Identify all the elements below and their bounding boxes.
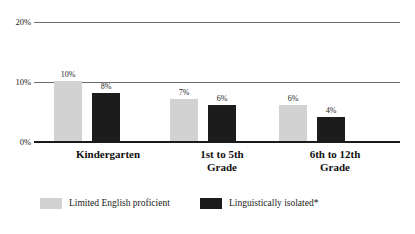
bar-linguistically-isolated — [208, 105, 236, 141]
bar-value-label: 6% — [202, 94, 242, 103]
bar-group-1st-to-5th-grade: 7% 6% — [170, 22, 286, 141]
bar-slot: 6% — [208, 22, 236, 141]
y-axis-tick-20: 20% — [0, 17, 31, 27]
bar-chart: 20% 10% 0% 10% 8% 7% — [0, 0, 415, 234]
bar-limited-english-proficient — [54, 81, 82, 141]
category-label-kindergarten: Kindergarten — [40, 148, 176, 161]
x-axis-category-labels: Kindergarten 1st to 5th Grade 6th to 12t… — [34, 148, 400, 186]
bar-slot: 10% — [54, 22, 82, 141]
chart-legend: Limited English proficient Linguisticall… — [34, 196, 404, 212]
bar-linguistically-isolated — [92, 93, 120, 141]
bar-value-label: 4% — [311, 106, 351, 115]
legend-label: Limited English proficient — [69, 198, 170, 209]
x-axis-baseline — [34, 141, 400, 143]
legend-swatch-icon — [200, 198, 222, 209]
legend-swatch-icon — [40, 198, 62, 209]
bar-value-label: 8% — [86, 82, 126, 91]
y-axis-tick-10: 10% — [0, 77, 31, 87]
bar-slot: 8% — [92, 22, 120, 141]
bar-linguistically-isolated — [317, 117, 345, 141]
bar-value-label: 10% — [48, 70, 88, 79]
legend-label: Linguistically isolated* — [229, 198, 318, 209]
bar-limited-english-proficient — [170, 99, 198, 141]
bar-value-label: 7% — [164, 88, 204, 97]
legend-item-linguistically-isolated: Linguistically isolated* — [200, 196, 318, 210]
bar-slot: 4% — [317, 22, 345, 141]
bar-value-label: 6% — [273, 94, 313, 103]
bar-group-kindergarten: 10% 8% — [54, 22, 170, 141]
bar-limited-english-proficient — [279, 105, 307, 141]
category-label-1st-to-5th-grade: 1st to 5th Grade — [162, 148, 282, 174]
y-axis-tick-0: 0% — [0, 137, 31, 147]
bar-slot: 6% — [279, 22, 307, 141]
legend-item-limited-english-proficient: Limited English proficient — [40, 196, 170, 210]
plot-area: 10% 8% 7% 6% — [34, 22, 400, 143]
category-label-6th-to-12th-grade: 6th to 12th Grade — [270, 148, 400, 174]
bar-slot: 7% — [170, 22, 198, 141]
bar-group-6th-to-12th-grade: 6% 4% — [279, 22, 395, 141]
